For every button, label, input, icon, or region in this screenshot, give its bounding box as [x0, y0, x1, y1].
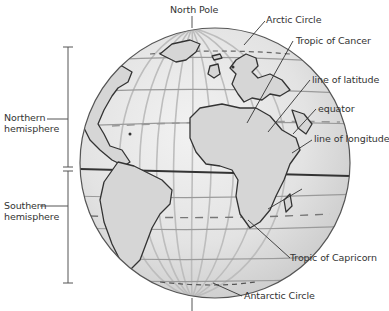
- line-of-latitude-label: line of latitude: [312, 74, 379, 85]
- island-dot: [129, 133, 132, 136]
- northern-hemisphere-line1: Northern: [4, 112, 59, 123]
- southern-hemisphere-label: Southern hemisphere: [4, 200, 59, 222]
- northern-hemisphere-line2: hemisphere: [4, 123, 59, 134]
- tropic-of-capricorn-label: Tropic of Capricorn: [290, 252, 377, 263]
- southern-hemisphere-line2: hemisphere: [4, 211, 59, 222]
- arctic-circle-label: Arctic Circle: [266, 14, 321, 25]
- hemisphere-bracket: [40, 47, 73, 283]
- tropic-of-cancer-label: Tropic of Cancer: [296, 35, 371, 46]
- line-of-longitude-label: line of longitude: [314, 133, 389, 144]
- antarctic-circle-label: Antarctic Circle: [244, 290, 315, 301]
- equator-label: equator: [318, 103, 354, 114]
- northern-hemisphere-label: Northern hemisphere: [4, 112, 59, 134]
- island-dot: [232, 66, 235, 69]
- southern-hemisphere-line1: Southern: [4, 200, 59, 211]
- north-pole-label: North Pole: [170, 4, 218, 15]
